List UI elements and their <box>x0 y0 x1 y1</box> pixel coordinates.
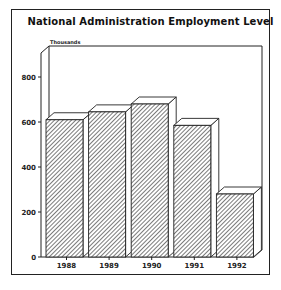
y-tick-label: 200 <box>21 209 36 217</box>
bar-1992 <box>216 187 261 257</box>
bar-1989 <box>89 105 134 257</box>
y-tick-label: 600 <box>21 119 36 127</box>
bar-series <box>46 97 261 257</box>
bar-1988 <box>46 113 91 257</box>
y-tick-label: 0 <box>31 254 36 262</box>
bar-1991 <box>174 118 219 257</box>
x-tick-label: 1991 <box>185 262 205 270</box>
x-tick-label: 1988 <box>57 262 77 270</box>
x-tick-label: 1989 <box>99 262 119 270</box>
y-tick-label: 800 <box>21 74 36 82</box>
x-tick-label: 1992 <box>227 262 247 270</box>
x-tick-label: 1990 <box>142 262 162 270</box>
y-tick-label: 400 <box>21 164 36 172</box>
bar-chart: 020040060080019881989199019911992 <box>0 0 281 290</box>
bar-1990 <box>131 97 176 257</box>
